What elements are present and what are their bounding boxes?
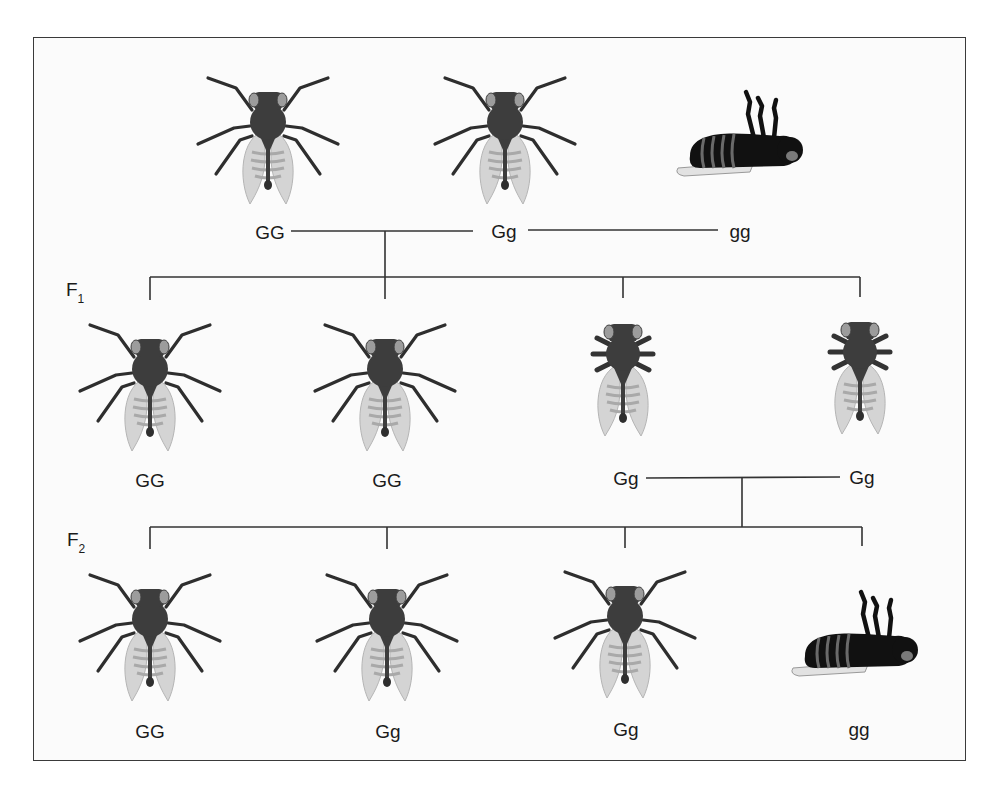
f1-fly-1 bbox=[80, 325, 220, 451]
parent-fly-dead bbox=[677, 92, 803, 176]
f2-genotype-2: Gg bbox=[375, 722, 400, 741]
f1-genotype-3: Gg bbox=[613, 469, 638, 488]
parent-genotype-3: gg bbox=[729, 222, 750, 241]
generation-label-f1: F1 bbox=[66, 280, 84, 303]
f1-genotype-1: GG bbox=[135, 471, 165, 490]
parent-genotype-1: GG bbox=[255, 223, 285, 242]
f1-fly-4-short-legs bbox=[830, 322, 890, 434]
f2-fly-dead bbox=[792, 592, 918, 676]
f1-fly-3-short-legs bbox=[593, 324, 653, 436]
f2-genotype-4: gg bbox=[848, 720, 869, 739]
f2-fly-3 bbox=[555, 572, 695, 698]
f1-fly-2 bbox=[315, 325, 455, 451]
parent-fly-gg-het bbox=[435, 78, 575, 204]
f1-genotype-2: GG bbox=[372, 471, 402, 490]
parent-genotype-2: Gg bbox=[491, 222, 516, 241]
pedigree-lines bbox=[0, 0, 993, 789]
f2-fly-1 bbox=[80, 575, 220, 701]
f2-genotype-1: GG bbox=[135, 722, 165, 741]
parent-fly-gg-upper bbox=[198, 78, 338, 204]
f2-fly-2 bbox=[317, 575, 457, 701]
f2-genotype-3: Gg bbox=[613, 720, 638, 739]
f1-genotype-4: Gg bbox=[849, 468, 874, 487]
generation-label-f2: F2 bbox=[67, 530, 85, 553]
